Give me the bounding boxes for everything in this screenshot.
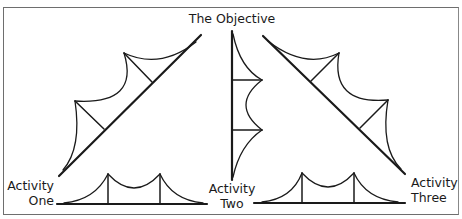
objective-label: The Objective <box>184 11 280 26</box>
activity-two-label: Activity Two <box>206 181 258 211</box>
activity-one-line2: One <box>6 193 54 208</box>
activity-three-line2: Three <box>411 190 459 205</box>
activity-one-label: Activity One <box>6 178 54 208</box>
activity-three-label: Activity Three <box>411 175 459 205</box>
activity-two-line1: Activity <box>206 181 258 196</box>
activity-two-line2: Two <box>206 196 258 211</box>
activity-two-vertical <box>232 31 262 180</box>
activity-three-diagonal <box>263 36 405 174</box>
objective-title: The Objective <box>189 11 276 26</box>
activity-one-line1: Activity <box>6 178 54 193</box>
bottom-left-baseline <box>57 174 207 204</box>
bottom-right-baseline <box>254 173 405 203</box>
activity-three-line1: Activity <box>411 175 459 190</box>
activity-one-diagonal <box>59 35 201 176</box>
